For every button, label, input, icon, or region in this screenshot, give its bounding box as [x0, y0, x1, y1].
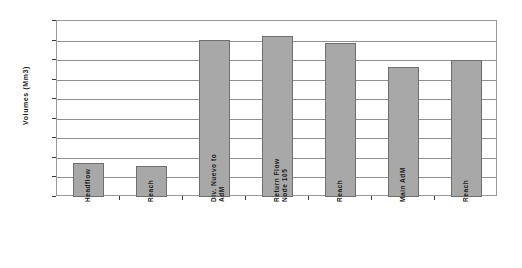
x-axis-tick-label: Reach — [147, 140, 155, 202]
x-axis-tick-label: Return Flow Node 105 — [273, 140, 289, 202]
y-axis-tick-mark — [52, 196, 56, 197]
x-axis-tick-label: Reach — [336, 140, 344, 202]
x-axis-tick-label: Reach — [462, 140, 470, 202]
x-axis-tick-mark — [245, 196, 246, 200]
x-axis-tick-mark — [434, 196, 435, 200]
x-axis-tick-label: Div. Nuevo to AdM — [210, 140, 226, 202]
x-axis-tick-label: Headflow — [84, 140, 92, 202]
x-axis-tick-mark — [308, 196, 309, 200]
bar-chart: Volumes (Mm3) 25023021019017015013011090… — [0, 0, 522, 268]
x-axis-tick-label: Main AdM — [399, 140, 407, 202]
y-axis-title: Volumes (Mm3) — [22, 41, 29, 151]
x-axis-tick-mark — [182, 196, 183, 200]
x-axis-tick-mark — [119, 196, 120, 200]
x-axis-tick-mark — [371, 196, 372, 200]
